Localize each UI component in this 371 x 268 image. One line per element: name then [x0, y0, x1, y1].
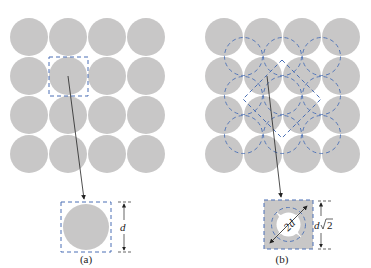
grid-circle-a [127, 18, 165, 56]
enlarged-circle-a [63, 204, 109, 250]
dashed-circles-b [225, 38, 341, 154]
grid-circle-a [88, 96, 126, 134]
panel-a: d (a) [10, 18, 165, 266]
grid-circle-a [10, 135, 48, 173]
grid-circle-b [283, 18, 321, 56]
grid-circle-b [283, 135, 321, 173]
grid-circle-a [10, 18, 48, 56]
grid-circle-a [49, 96, 87, 134]
caption-a: (a) [80, 253, 93, 266]
dimension-label-b-root: 2 [327, 219, 333, 231]
grid-circle-b [205, 135, 243, 173]
grid-circle-b [283, 96, 321, 134]
dimension-label-b-base: d [314, 219, 320, 231]
grid-circle-a [10, 96, 48, 134]
grid-circle-b [205, 18, 243, 56]
grid-circle-a [88, 57, 126, 95]
grid-circle-b [322, 18, 360, 56]
grid-circle-a [127, 57, 165, 95]
grid-circle-b [244, 96, 282, 134]
grid-circle-a [127, 135, 165, 173]
grid-circle-b [322, 135, 360, 173]
grid-circle-b [244, 57, 282, 95]
grid-circle-b [322, 96, 360, 134]
grid-circle-a [10, 57, 48, 95]
circle-grid-b [205, 18, 360, 173]
grid-circle-a [88, 18, 126, 56]
grid-circle-b [205, 96, 243, 134]
panel-b: 2d d 2 (b) [205, 18, 360, 266]
grid-circle-b [244, 18, 282, 56]
grid-circle-a [49, 18, 87, 56]
grid-circle-b [283, 57, 321, 95]
grid-circle-a [127, 96, 165, 134]
caption-b: (b) [276, 253, 289, 266]
dimension-label-a: d [120, 221, 126, 233]
grid-circle-b [205, 57, 243, 95]
figure: d (a) 2d [0, 0, 371, 268]
grid-circle-a [49, 135, 87, 173]
grid-circle-b [322, 57, 360, 95]
grid-circle-a [88, 135, 126, 173]
